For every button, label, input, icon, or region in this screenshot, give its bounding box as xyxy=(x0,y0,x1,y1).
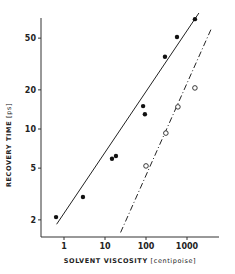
filled-data-point xyxy=(193,17,197,21)
axes xyxy=(41,18,219,237)
y-tick-label: 50 xyxy=(25,34,37,43)
fit-lines xyxy=(57,13,212,232)
x-tick-label: 1 xyxy=(61,242,67,251)
filled-data-point xyxy=(110,157,114,161)
open-data-point xyxy=(176,105,181,110)
y-tick-label: 10 xyxy=(25,125,37,134)
open-data-point xyxy=(193,86,198,91)
filled-data-point xyxy=(54,215,58,219)
filled-data-point xyxy=(163,54,167,58)
filled-data-point xyxy=(141,104,145,108)
filled-data-point xyxy=(143,112,147,116)
open-data-point xyxy=(164,131,169,136)
x-tick-label: 100 xyxy=(138,242,155,251)
x-tick-label: 10 xyxy=(99,242,111,251)
filled-data-point xyxy=(175,35,179,39)
x-axis-label: SOLVENT VISCOSITY [centipoise] xyxy=(64,257,196,265)
y-tick-label: 20 xyxy=(25,86,37,95)
x-tick-label: 1000 xyxy=(176,242,199,251)
filled-data-point xyxy=(114,154,118,158)
open-data-point xyxy=(144,164,149,169)
filled-data-point xyxy=(81,195,85,199)
y-axis-label: RECOVERY TIME [ps] xyxy=(5,103,13,187)
solid-fit-line xyxy=(57,13,199,224)
y-tick-label: 2 xyxy=(30,216,36,225)
chart: 110100100025102050 SOLVENT VISCOSITY [ce… xyxy=(0,0,235,274)
y-tick-label: 5 xyxy=(30,164,36,173)
